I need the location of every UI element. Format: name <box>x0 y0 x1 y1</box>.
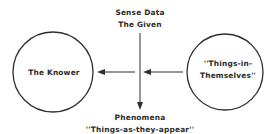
left-arrowhead-icon <box>97 69 105 75</box>
things-in-themselves-label-line2: Themselves'' <box>200 71 256 80</box>
right-arrowhead-icon <box>143 69 151 75</box>
phenomena-label: Phenomena <box>115 113 166 122</box>
sense-data-label: Sense Data <box>115 8 164 17</box>
knower-label: The Knower <box>28 68 80 77</box>
knowledge-diagram: Sense Data The Given The Knower ''Things… <box>0 0 271 134</box>
things-in-themselves-label-line1: ''Things-in- <box>204 59 253 68</box>
the-given-label: The Given <box>118 20 161 29</box>
down-arrowhead-icon <box>137 102 143 110</box>
things-as-they-appear-label: ''Things-as-they-appear'' <box>86 125 194 134</box>
